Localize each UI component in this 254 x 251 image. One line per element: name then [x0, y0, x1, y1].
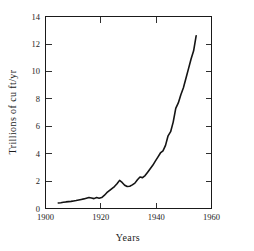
- ytick-label-14: 14: [32, 12, 41, 22]
- ytick-label-2: 2: [36, 176, 40, 186]
- data-line-natural-gas: [58, 36, 196, 203]
- ytick-label-10: 10: [32, 66, 41, 76]
- xtick-label-1940: 1940: [148, 212, 165, 222]
- y-axis-title: Trillions of cu ft/yr: [7, 69, 18, 154]
- x-axis-ticks-top: [46, 17, 212, 23]
- x-axis-title: Years: [116, 232, 140, 243]
- ytick-label-6: 6: [36, 121, 40, 131]
- figure-container: 0 2 4 6 8 10 12 14 1900 1920 1940 1960 Y…: [0, 0, 254, 251]
- y-axis-ticks-right: [206, 17, 212, 209]
- ytick-label-4: 4: [36, 149, 41, 159]
- xtick-label-1920: 1920: [92, 212, 109, 222]
- ytick-label-8: 8: [36, 94, 40, 104]
- xtick-label-1900: 1900: [37, 212, 54, 222]
- y-axis-ticks: [46, 17, 52, 209]
- xtick-label-1960: 1960: [203, 212, 220, 222]
- plot-frame: [46, 17, 212, 209]
- x-axis-ticks: [46, 203, 212, 209]
- ytick-label-12: 12: [32, 39, 41, 49]
- line-chart: 0 2 4 6 8 10 12 14 1900 1920 1940 1960 Y…: [0, 0, 254, 251]
